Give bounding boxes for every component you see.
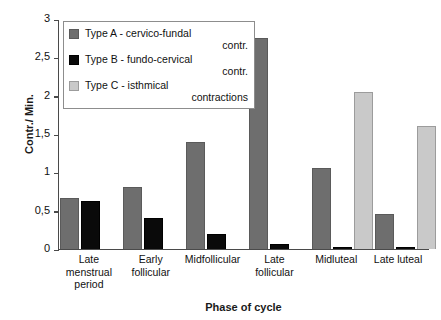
bar-chart: Contr./ Min. 32,521,510,50 Latemenstrual… xyxy=(0,0,441,320)
bar[interactable] xyxy=(375,214,394,249)
bar[interactable] xyxy=(207,234,226,249)
bar[interactable] xyxy=(312,168,331,249)
y-axis-tick-label: 0,5 xyxy=(35,204,50,216)
chart-legend: Type A - cervico-fundalcontr.Type B - fu… xyxy=(63,21,255,109)
bar[interactable] xyxy=(417,126,436,249)
legend-swatch-icon xyxy=(69,81,79,91)
legend-swatch-icon xyxy=(69,29,79,39)
x-axis-label: Latefollicular xyxy=(243,253,305,291)
y-axis-tick-label: 3 xyxy=(44,12,50,24)
tick-mark xyxy=(54,250,59,252)
x-axis-title: Phase of cycle xyxy=(58,301,429,313)
legend-label: Type A - cervico-fundalcontr. xyxy=(85,27,248,51)
bar[interactable] xyxy=(60,198,79,249)
y-axis-tick-label: 1 xyxy=(44,165,50,177)
x-axis-labels: LatemenstrualperiodEarlyfollicularMidfol… xyxy=(58,253,429,291)
y-axis-title: Contr./ Min. xyxy=(23,64,35,184)
bar[interactable] xyxy=(333,247,352,249)
bar-group xyxy=(374,20,437,249)
y-axis-tick-label: 1,5 xyxy=(35,127,50,139)
legend-swatch-icon xyxy=(69,55,79,65)
bar[interactable] xyxy=(186,142,205,249)
bar[interactable] xyxy=(144,218,163,249)
legend-label: Type B - fundo-cervicalcontr. xyxy=(85,53,248,77)
bar-group xyxy=(311,20,374,249)
bar[interactable] xyxy=(396,247,415,249)
bar[interactable] xyxy=(81,201,100,249)
y-axis-tick-label: 0 xyxy=(44,242,50,254)
bar[interactable] xyxy=(123,187,142,249)
legend-item[interactable]: Type A - cervico-fundalcontr. xyxy=(69,27,248,51)
bar-group xyxy=(248,20,311,249)
x-axis-label: Earlyfollicular xyxy=(120,253,182,291)
x-axis-label: Late luteal xyxy=(367,253,429,291)
x-axis-label: Latemenstrualperiod xyxy=(58,253,120,291)
x-axis-label: Midfollicular xyxy=(182,253,244,291)
legend-label: Type C - isthmicalcontractions xyxy=(85,79,248,103)
x-axis-label: Midluteal xyxy=(305,253,367,291)
y-axis-tick-label: 2 xyxy=(44,89,50,101)
bar[interactable] xyxy=(270,244,289,249)
bar[interactable] xyxy=(354,92,373,249)
y-axis-tick-label: 2,5 xyxy=(35,50,50,62)
legend-item[interactable]: Type C - isthmicalcontractions xyxy=(69,79,248,103)
legend-item[interactable]: Type B - fundo-cervicalcontr. xyxy=(69,53,248,77)
